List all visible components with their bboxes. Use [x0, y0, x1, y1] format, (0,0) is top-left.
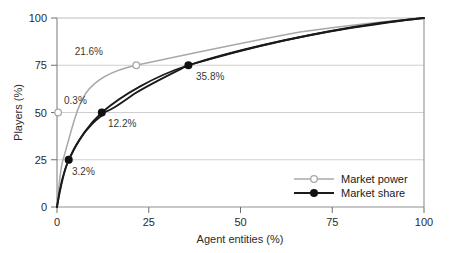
chart-background [0, 0, 458, 253]
ytick-label-100: 100 [29, 12, 47, 24]
annotation-12-2: 12.2% [108, 118, 136, 129]
datapoint-market-share-25 [65, 156, 73, 164]
datapoint-market-power-50 [55, 109, 62, 116]
y-axis-title: Players (%) [12, 84, 24, 141]
datapoint-market-share-75 [184, 61, 192, 69]
legend-label-market-power: Market power [341, 173, 408, 185]
chart-legend[interactable]: Market power Market share [290, 168, 422, 201]
annotation-35-8: 35.8% [196, 71, 224, 82]
xtick-label-50: 50 [234, 216, 246, 228]
xtick-label-0: 0 [54, 216, 60, 228]
legend-marker-filled-circle-icon [310, 189, 318, 197]
annotation-3-2: 3.2% [72, 166, 95, 177]
x-axis-title: Agent entities (%) [197, 233, 284, 245]
lorenz-curve-chart: 100 75 50 25 0 0 25 50 75 100 [0, 0, 458, 253]
datapoint-market-power-75 [133, 62, 140, 69]
xtick-label-75: 75 [326, 216, 338, 228]
datapoint-market-share-50 [98, 109, 106, 117]
annotation-0-3: 0.3% [64, 95, 87, 106]
ytick-label-75: 75 [35, 59, 47, 71]
chart-container: 100 75 50 25 0 0 25 50 75 100 [0, 0, 458, 253]
annotation-21-6: 21.6% [75, 46, 103, 57]
xtick-label-25: 25 [143, 216, 155, 228]
ytick-label-0: 0 [41, 201, 47, 213]
xtick-label-100: 100 [415, 216, 433, 228]
ytick-label-25: 25 [35, 154, 47, 166]
ytick-label-50: 50 [35, 107, 47, 119]
legend-label-market-share: Market share [341, 187, 405, 199]
legend-marker-open-circle-icon [311, 176, 318, 183]
